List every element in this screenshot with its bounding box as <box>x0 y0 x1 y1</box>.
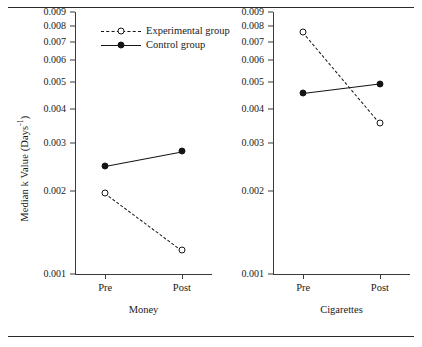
y-tick-mark <box>70 41 75 42</box>
y-tick-label: 0.008 <box>242 21 265 31</box>
x-tick-label: Pre <box>296 282 310 293</box>
y-tick-label: 0.004 <box>242 104 265 114</box>
y-tick-label: 0.009 <box>44 7 67 17</box>
y-tick-mark <box>70 191 75 192</box>
data-line-segment <box>105 193 182 251</box>
y-tick-label: 0.007 <box>242 37 265 47</box>
y-tick-label: 0.003 <box>242 138 265 148</box>
panel-money: 0.0010.0020.0030.0040.0050.0060.0070.008… <box>24 12 214 332</box>
x-tick-label: Pre <box>98 282 112 293</box>
y-tick-mark <box>70 60 75 61</box>
y-axis-ticklabels-cigarettes: 0.0010.0020.0030.0040.0050.0060.0070.008… <box>222 12 268 274</box>
data-point-marker <box>376 119 383 126</box>
y-tick-mark <box>268 143 273 144</box>
y-tick-mark <box>268 26 273 27</box>
figure-bottom-rule <box>8 336 414 337</box>
data-line-segment <box>303 84 380 95</box>
y-tick-mark <box>268 60 273 61</box>
data-point-marker <box>102 190 109 197</box>
x-tick-mark <box>182 274 183 279</box>
y-tick-label: 0.005 <box>44 77 67 87</box>
y-tick-label: 0.001 <box>44 269 67 279</box>
y-tick-label: 0.003 <box>44 138 67 148</box>
panel-cigarettes: 0.0010.0020.0030.0040.0050.0060.0070.008… <box>222 12 412 332</box>
legend-item-control: Control group <box>101 38 230 52</box>
x-tick-label: Post <box>173 282 191 293</box>
y-tick-mark <box>268 274 273 275</box>
x-axis-title-cigarettes: Cigarettes <box>273 304 410 315</box>
plot-area-cigarettes <box>273 12 410 274</box>
y-tick-mark <box>70 82 75 83</box>
legend-key-control <box>101 39 141 51</box>
y-tick-mark <box>70 274 75 275</box>
data-point-marker <box>300 29 307 36</box>
figure-top-rule <box>8 7 414 8</box>
legend-key-experimental <box>101 25 141 37</box>
x-axis-title-money: Money <box>75 304 212 315</box>
y-tick-mark <box>268 12 273 13</box>
x-tick-mark <box>303 274 304 279</box>
y-tick-label: 0.002 <box>44 186 67 196</box>
y-tick-label: 0.005 <box>242 77 265 87</box>
y-tick-label: 0.004 <box>44 104 67 114</box>
figure-two-panel-line-chart: Median k Value (Days-1) 0.0010.0020.0030… <box>0 12 422 332</box>
y-tick-label: 0.007 <box>44 37 67 47</box>
x-tick-mark <box>105 274 106 279</box>
y-tick-mark <box>70 143 75 144</box>
y-tick-label: 0.006 <box>44 55 67 65</box>
data-point-marker <box>178 247 185 254</box>
legend: Experimental group Control group <box>101 24 230 52</box>
y-tick-mark <box>268 82 273 83</box>
data-point-marker <box>102 162 109 169</box>
y-axis-ticklabels-money: 0.0010.0020.0030.0040.0050.0060.0070.008… <box>24 12 70 274</box>
open-circle-icon <box>118 28 125 35</box>
legend-label-control: Control group <box>146 38 205 52</box>
y-tick-label: 0.001 <box>242 269 265 279</box>
x-axis-spine-money <box>75 274 212 275</box>
y-tick-label: 0.006 <box>242 55 265 65</box>
y-tick-mark <box>268 108 273 109</box>
x-tick-label: Post <box>371 282 389 293</box>
y-tick-label: 0.002 <box>242 186 265 196</box>
y-tick-mark <box>268 41 273 42</box>
data-line-segment <box>105 151 182 166</box>
data-line-segment <box>302 32 379 123</box>
y-tick-mark <box>268 191 273 192</box>
legend-item-experimental: Experimental group <box>101 24 230 38</box>
y-tick-mark <box>70 26 75 27</box>
y-tick-label: 0.009 <box>242 7 265 17</box>
x-tick-mark <box>380 274 381 279</box>
data-point-marker <box>376 80 383 87</box>
data-point-marker <box>178 148 185 155</box>
data-point-marker <box>300 90 307 97</box>
legend-label-experimental: Experimental group <box>146 24 230 38</box>
filled-circle-icon <box>118 42 125 49</box>
x-axis-spine-cigarettes <box>273 274 410 275</box>
y-tick-label: 0.008 <box>44 21 67 31</box>
y-tick-mark <box>70 108 75 109</box>
y-tick-mark <box>70 12 75 13</box>
